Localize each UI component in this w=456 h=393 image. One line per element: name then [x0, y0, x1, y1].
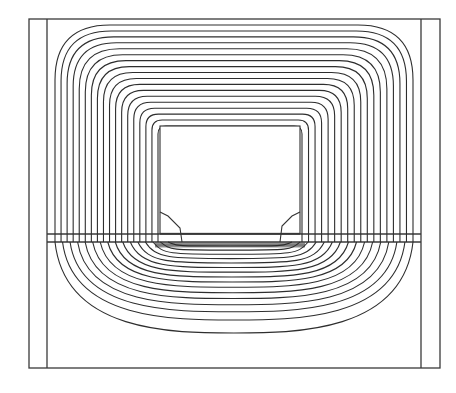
core-window-rect — [160, 126, 300, 233]
flux-line-lower — [108, 242, 357, 282]
core-window — [160, 126, 300, 242]
flux-line-lower — [100, 242, 364, 287]
flux-plot-figure — [0, 0, 456, 393]
lower-flux-lines — [55, 242, 413, 333]
flux-plot-canvas — [0, 0, 456, 393]
